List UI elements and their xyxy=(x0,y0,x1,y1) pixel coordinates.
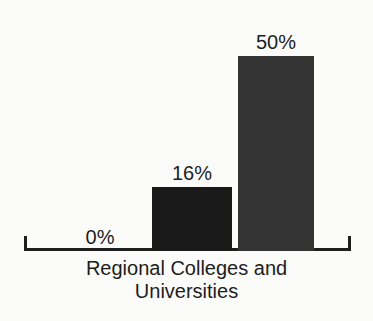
x-axis-tick-left xyxy=(24,236,27,251)
x-axis-label-line-1: Regional Colleges and xyxy=(0,257,373,280)
x-axis-label-line-2: Universities xyxy=(0,280,373,303)
plot-area: 0% 16% 50% Regional Colleges and Univers… xyxy=(0,0,373,321)
bar-value-label: 0% xyxy=(35,226,165,249)
bar xyxy=(238,56,314,251)
bar-value-label: 16% xyxy=(127,162,257,185)
bar-chart: 0% 16% 50% Regional Colleges and Univers… xyxy=(0,0,373,321)
x-axis-label: Regional Colleges and Universities xyxy=(0,257,373,303)
bar-value-label: 50% xyxy=(213,31,339,54)
x-axis-tick-right xyxy=(348,236,351,251)
